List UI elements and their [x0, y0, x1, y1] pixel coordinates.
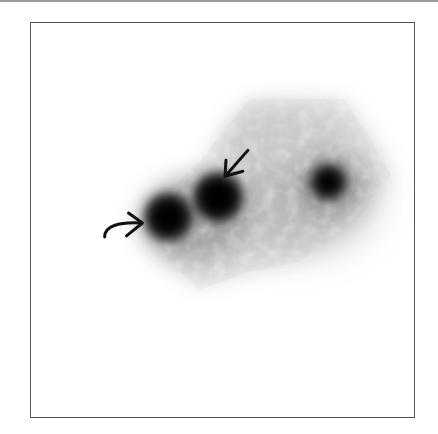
top-border-strip [0, 0, 438, 2]
curved-arrow-icon [105, 213, 143, 237]
image-frame [30, 22, 415, 418]
focus-left [144, 193, 192, 241]
focus-right [311, 164, 347, 200]
background-uptake [140, 91, 399, 300]
scan-image [31, 23, 414, 417]
focus-middle [193, 172, 243, 222]
